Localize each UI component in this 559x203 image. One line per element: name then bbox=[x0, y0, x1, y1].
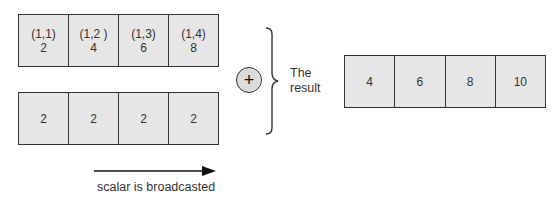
bottom-array: 2 2 2 2 bbox=[18, 92, 219, 145]
cell-value: 2 bbox=[190, 112, 197, 126]
cell-value: 2 bbox=[40, 112, 47, 126]
cell-value: 4 bbox=[90, 41, 97, 55]
cell-value: 2 bbox=[140, 112, 147, 126]
curly-brace-icon bbox=[264, 26, 280, 136]
top-array: (1,1) 2 (1,2 ) 4 (1,3) 6 (1,4) 8 bbox=[18, 14, 219, 67]
right-arrow-icon bbox=[92, 164, 218, 178]
broadcast-label: scalar is broadcasted bbox=[97, 180, 215, 194]
operator-symbol: + bbox=[244, 71, 255, 89]
result-label: The result bbox=[290, 66, 321, 96]
cell-value: 6 bbox=[417, 75, 424, 89]
array-cell: (1,3) 6 bbox=[119, 15, 169, 66]
array-cell: 2 bbox=[19, 93, 69, 144]
cell-value: 10 bbox=[514, 75, 527, 89]
array-cell: 2 bbox=[119, 93, 169, 144]
cell-value: 2 bbox=[40, 41, 47, 55]
cell-value: 2 bbox=[90, 112, 97, 126]
array-cell: 2 bbox=[69, 93, 119, 144]
array-cell: 6 bbox=[395, 56, 445, 107]
cell-index: (1,3) bbox=[131, 27, 156, 41]
array-cell: (1,1) 2 bbox=[19, 15, 69, 66]
cell-index: (1,4) bbox=[181, 27, 206, 41]
result-label-line2: result bbox=[290, 81, 321, 96]
array-cell: 8 bbox=[446, 56, 496, 107]
array-cell: (1,4) 8 bbox=[169, 15, 218, 66]
result-array: 4 6 8 10 bbox=[344, 55, 546, 108]
cell-value: 4 bbox=[366, 75, 373, 89]
cell-value: 6 bbox=[140, 41, 147, 55]
array-cell: (1,2 ) 4 bbox=[69, 15, 119, 66]
cell-index: (1,1) bbox=[31, 27, 56, 41]
result-label-line1: The bbox=[290, 66, 321, 81]
plus-circle-icon: + bbox=[236, 67, 262, 93]
array-cell: 10 bbox=[496, 56, 545, 107]
array-cell: 2 bbox=[169, 93, 218, 144]
cell-value: 8 bbox=[190, 41, 197, 55]
array-cell: 4 bbox=[345, 56, 395, 107]
cell-value: 8 bbox=[467, 75, 474, 89]
cell-index: (1,2 ) bbox=[79, 27, 107, 41]
